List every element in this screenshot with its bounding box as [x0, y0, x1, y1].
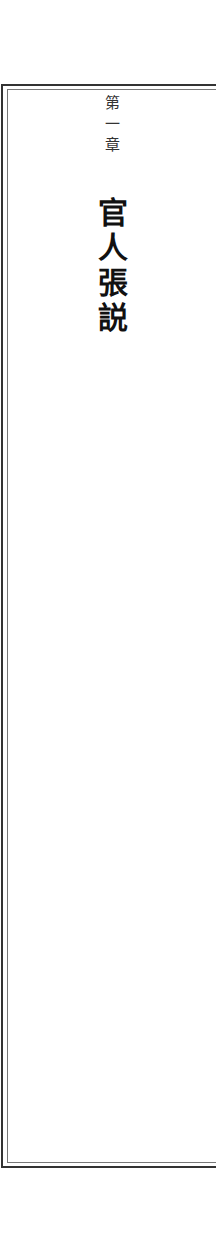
chapter-title-char: 人: [96, 231, 130, 266]
chapter-title-char: 説: [96, 301, 130, 336]
chapter-label-char: 一: [100, 114, 124, 135]
chapter-label-char: 章: [100, 135, 124, 156]
chapter-title-char: 官: [96, 196, 130, 231]
chapter-number-label: 第 一 章: [100, 93, 124, 156]
chapter-label-char: 第: [100, 93, 124, 114]
chapter-title-char: 張: [96, 266, 130, 301]
chapter-title: 官 人 張 説: [96, 196, 130, 336]
